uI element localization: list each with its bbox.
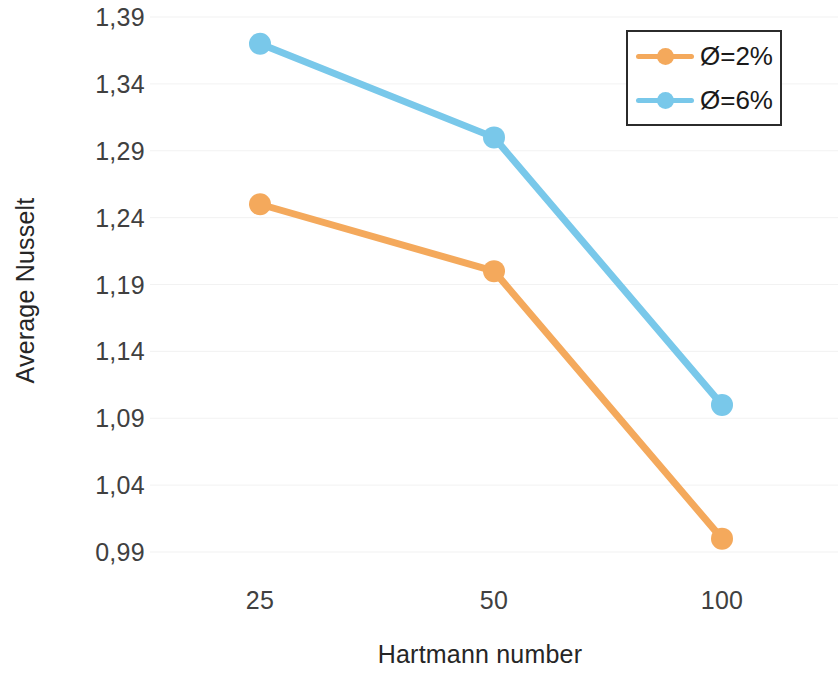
data-point (711, 394, 733, 416)
y-axis-tick-labels: 0,991,041,091,141,191,241,291,341,39 (40, 0, 145, 683)
legend-marker-icon (636, 45, 694, 67)
data-point (483, 260, 505, 282)
y-axis-tick-label: 0,99 (53, 538, 145, 567)
legend-label: Ø=2% (700, 41, 773, 72)
legend-item[interactable]: Ø=2% (636, 34, 772, 78)
y-axis-tick-label: 1,24 (53, 203, 145, 232)
series-line-1 (260, 204, 722, 538)
line-chart: Average Nusselt 0,991,041,091,141,191,24… (0, 0, 838, 683)
legend-marker-icon (636, 89, 694, 111)
y-axis-tick-label: 1,14 (53, 337, 145, 366)
legend-item[interactable]: Ø=6% (636, 78, 772, 122)
y-axis-tick-label: 1,39 (53, 3, 145, 32)
x-axis-tick-label: 100 (701, 586, 744, 615)
y-axis-tick-label: 1,29 (53, 136, 145, 165)
y-axis-tick-label: 1,09 (53, 404, 145, 433)
x-axis-title: Hartmann number (150, 640, 810, 669)
data-point (483, 126, 505, 148)
data-point (249, 193, 271, 215)
y-axis-tick-label: 1,04 (53, 471, 145, 500)
x-axis-tick-label: 25 (246, 586, 274, 615)
data-point (711, 528, 733, 550)
data-point (249, 33, 271, 55)
y-axis-tick-label: 1,19 (53, 270, 145, 299)
x-axis-tick-label: 50 (480, 586, 508, 615)
legend-label: Ø=6% (700, 85, 773, 116)
x-axis-title-label: Hartmann number (378, 640, 582, 668)
legend: Ø=2%Ø=6% (626, 30, 782, 126)
y-axis-title-label: Average Nusselt (12, 197, 41, 383)
y-axis-tick-label: 1,34 (53, 69, 145, 98)
